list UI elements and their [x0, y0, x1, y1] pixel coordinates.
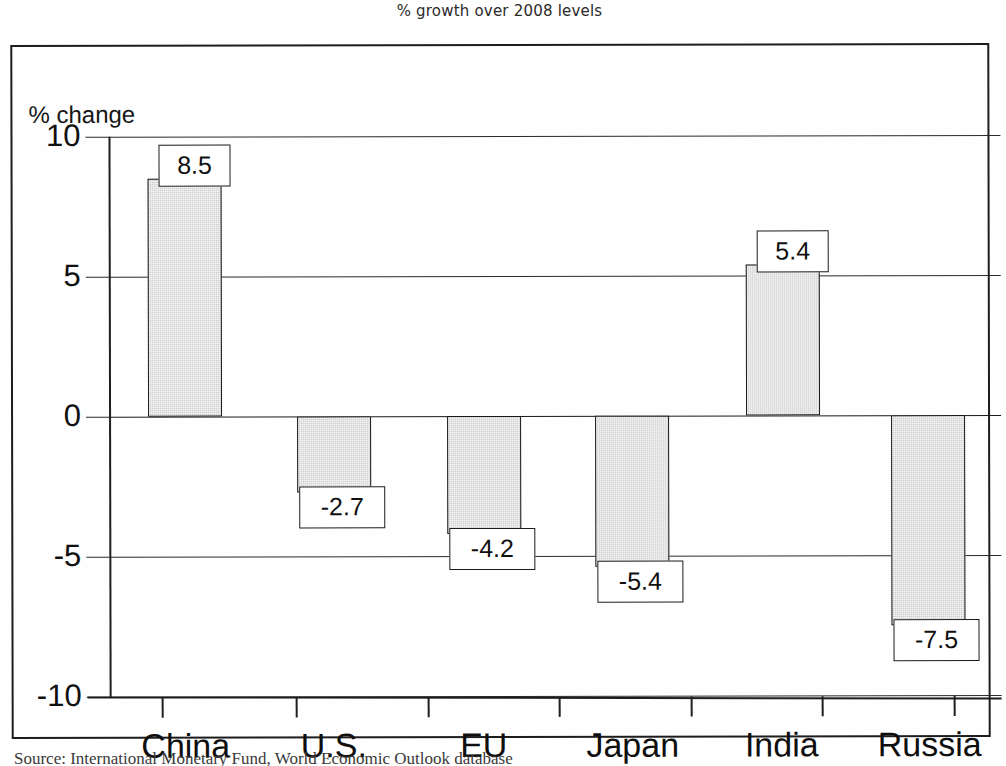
y-tick-label-10: 10	[12, 120, 80, 151]
y-axis-ticks: 1050-5-10	[12, 45, 987, 47]
bar-china[interactable]	[148, 179, 222, 417]
x-tick-mark-4	[691, 697, 693, 717]
gridline-10	[108, 135, 1000, 138]
gridline--5	[109, 555, 1001, 558]
gridline-5	[109, 275, 1001, 278]
value-label-eu: -4.2	[449, 528, 535, 570]
x-tick-mark-6	[954, 696, 956, 716]
chart-title: % growth over 2008 levels	[0, 2, 999, 20]
y-tick-mark-5	[86, 277, 109, 278]
x-axis-labels: ChinaU.S.EUJapanIndiaRussia	[12, 45, 987, 47]
y-tick-label--5: -5	[13, 540, 81, 571]
bar-us[interactable]	[297, 416, 371, 492]
y-tick-label-0: 0	[13, 400, 81, 431]
y-tick-mark-10	[85, 137, 108, 138]
value-label-india: 5.4	[757, 230, 829, 272]
x-tick-mark-1	[296, 697, 298, 717]
x-tick-mark-5	[822, 696, 824, 716]
bar-india[interactable]	[746, 264, 820, 415]
gridline-0	[109, 415, 1001, 418]
source-note: Source: International Monetary Fund, Wor…	[14, 749, 954, 766]
x-tick-mark-3	[559, 697, 561, 717]
bar-japan[interactable]	[595, 416, 669, 567]
value-label-russia: -7.5	[893, 619, 979, 661]
y-tick-mark-0	[86, 417, 109, 418]
y-tick-mark--5	[86, 557, 109, 558]
y-tick-label--10: -10	[14, 680, 82, 711]
x-tick-mark-0	[162, 698, 164, 718]
bar-russia[interactable]	[891, 415, 965, 625]
plot-area	[108, 135, 1001, 697]
value-label-us: -2.7	[299, 486, 385, 528]
value-label-china: 8.5	[158, 145, 230, 187]
x-axis-line	[88, 696, 1002, 699]
value-label-japan: -5.4	[597, 561, 683, 603]
x-tick-mark-2	[428, 697, 430, 717]
bar-eu[interactable]	[447, 416, 521, 534]
chart-frame: % change 1050-5-10 ChinaU.S.EUJapanIndia…	[10, 43, 990, 739]
y-tick-label-5: 5	[13, 260, 81, 291]
